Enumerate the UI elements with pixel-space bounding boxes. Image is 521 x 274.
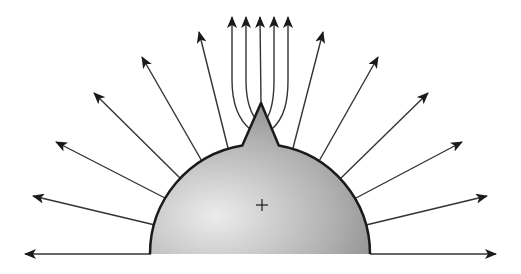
field-line-arrow <box>246 17 255 118</box>
field-line-arrow <box>292 32 323 152</box>
field-line-arrow <box>318 57 378 163</box>
field-line-arrow <box>267 17 274 118</box>
field-line-arrow <box>142 57 203 163</box>
field-line-arrow <box>33 196 155 225</box>
field-line-arrow <box>56 142 165 198</box>
field-line-arrow <box>94 93 181 179</box>
field-line-arrow <box>199 32 229 152</box>
field-line-arrow <box>260 17 261 103</box>
field-line-arrow <box>232 17 251 130</box>
field-line-arrow <box>366 196 487 225</box>
field-lines-diagram <box>0 0 521 274</box>
field-line-arrow <box>356 142 462 198</box>
hemispherical-conductor-with-spike <box>150 103 370 254</box>
field-line-arrow <box>340 93 428 179</box>
